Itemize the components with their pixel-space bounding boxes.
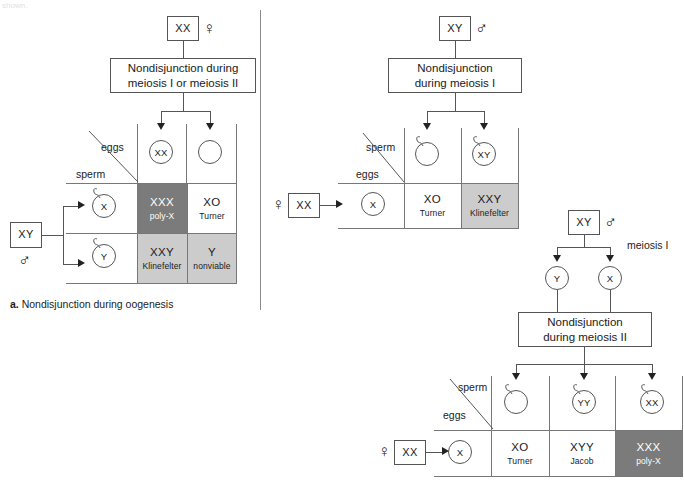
- panel-a-cell-y-phenotype: nonviable: [193, 261, 230, 271]
- panel-b-cell-xxy-genotype: XXY: [477, 193, 501, 205]
- panel-c-cell-xxx-phenotype: poly-X: [636, 456, 661, 466]
- panel-c-split-bar: [557, 247, 611, 248]
- panel-a-caption-marker: a.: [10, 298, 19, 310]
- panel-a-other-parent-branch-2: [63, 264, 78, 265]
- panel-b-arrow-1: [423, 123, 431, 130]
- panel-a-cell-xxx-phenotype: poly-X: [150, 211, 175, 221]
- panel-c-merge-left: [557, 290, 558, 312]
- panel-b-col-sep-2: [461, 128, 462, 183]
- panel-a-other-parent-arrow-1: [78, 201, 85, 209]
- panel-c-parent-genotype: XY: [576, 216, 591, 230]
- panel-c-other-parent-stem: [426, 452, 442, 453]
- panel-c-sperm-2: YY: [572, 390, 598, 416]
- panel-c-stage-label: meiosis I: [627, 239, 668, 251]
- panel-b-other-parent-arrow: [336, 200, 343, 208]
- panel-a-cell-xxy: XXY Klinefelter: [137, 233, 187, 283]
- panel-a-egg-1-label: XX: [149, 140, 173, 164]
- panel-a-stem-2: [183, 93, 184, 111]
- panel-c-sperm-3: XX: [640, 390, 666, 416]
- panel-c-process-box: Nondisjunction during meiosis II: [518, 312, 652, 347]
- panel-b-stem-1: [455, 41, 456, 58]
- panel-c-cell-xo-phenotype: Turner: [507, 456, 532, 466]
- panel-a-cell-xxx-genotype: XXX: [150, 196, 174, 208]
- panel-a-caption: a. Nondisjunction during oogenesis: [10, 298, 173, 310]
- panel-a-process-line2: meiosis I or meiosis II: [128, 76, 239, 90]
- panel-a-grid-bottom-rule: [66, 283, 237, 284]
- panel-b-cell-xo-phenotype: Turner: [420, 208, 445, 218]
- panel-a-egg-2-label: [198, 140, 222, 164]
- panel-a-diagonal: [88, 130, 140, 184]
- panel-a-arrow-2: [206, 123, 214, 130]
- panel-b-other-parent-stem: [320, 205, 336, 206]
- panel-b-sperm-2-label: XY: [472, 142, 496, 166]
- panel-b-parent-genotype: XY: [447, 22, 462, 36]
- panel-c-cell-xo-genotype: XO: [511, 441, 528, 453]
- panel-a-sperm-x-label: X: [92, 194, 116, 218]
- panel-c-grid-vline-2: [549, 430, 550, 477]
- panel-c-arrow-5: [648, 373, 656, 380]
- panel-b-sperm-1-label: [415, 142, 439, 166]
- panel-a-sperm-y-label: Y: [92, 244, 116, 268]
- panel-a-cell-y: Y nonviable: [187, 233, 237, 283]
- panel-a-process-box: Nondisjunction during meiosis I or meios…: [110, 58, 256, 93]
- panel-c-stem-2: [584, 347, 585, 364]
- panel-c-egg-x-label: X: [448, 440, 472, 464]
- panel-c-grid-vline-4: [682, 430, 683, 477]
- panel-c-process-line1: Nondisjunction: [547, 315, 622, 329]
- panel-a-grid-vline-right: [236, 183, 237, 284]
- panel-c-cell-xyy: XYY Jacob: [549, 430, 615, 476]
- clipped-top-text: shown.: [2, 1, 27, 10]
- panel-c-arrow-3: [512, 373, 520, 380]
- panel-b-other-parent-genotype: XX: [296, 199, 311, 213]
- panel-c-other-parent-sex-symbol: ♀: [378, 443, 391, 460]
- panel-b-process-line1: Nondisjunction: [417, 61, 492, 75]
- panel-a-sperm-y: Y: [92, 244, 118, 270]
- panel-b-stem-2: [455, 93, 456, 111]
- panel-b-grid-bottom-rule: [338, 228, 519, 229]
- panel-c-diagonal: [449, 378, 495, 431]
- panel-a-caption-text: Nondisjunction during oogenesis: [22, 298, 174, 310]
- panel-a-cell-xxx: XXX poly-X: [137, 183, 187, 233]
- panel-c-intermediate-x: X: [598, 266, 624, 292]
- panel-c-arrow-1: [553, 255, 561, 262]
- panel-c-sperm-3-label: XX: [640, 390, 664, 414]
- panel-a-cell-xxy-phenotype: Klinefelter: [143, 261, 182, 271]
- panel-a-parent-genotype: XX: [175, 22, 190, 36]
- panel-a-egg-2: [198, 140, 224, 166]
- panel-b-grid-vline-2: [461, 183, 462, 229]
- panel-c-intermediate-y: Y: [545, 266, 571, 292]
- panel-a-cell-xo: XO Turner: [187, 183, 237, 233]
- panel-c-grid-top-rule: [434, 430, 682, 431]
- panel-c-sperm-2-label: YY: [572, 390, 596, 414]
- panel-a-grid-mid-rule: [66, 233, 237, 234]
- panel-a-process-line1: Nondisjunction during: [128, 61, 239, 75]
- panel-a-other-parent-sex-symbol: ♂: [18, 252, 31, 269]
- panel-c-merge-right: [610, 290, 611, 312]
- panel-c-parent-sex-symbol: ♂: [604, 214, 617, 231]
- panel-c-cell-xxx: XXX poly-X: [615, 430, 682, 476]
- panel-b-egg-x: X: [361, 192, 387, 218]
- panel-c-stem-1: [584, 235, 585, 247]
- panel-a-cell-xo-phenotype: Turner: [199, 211, 224, 221]
- panel-a-cell-xxy-genotype: XXY: [150, 246, 174, 258]
- panel-a-other-parent-stem: [42, 235, 63, 236]
- panel-c-other-parent-genotype: XX: [402, 446, 417, 460]
- panel-a-col-sep-top-2: [186, 124, 187, 183]
- panel-b-egg-x-label: X: [361, 192, 385, 216]
- panel-a-parent-box: XX: [167, 16, 199, 41]
- panel-a-cell-y-genotype: Y: [208, 246, 216, 258]
- panel-b-parent-sex-symbol: ♂: [475, 20, 488, 37]
- panel-a-other-parent-genotype: XY: [18, 228, 33, 242]
- panel-c-intermediate-y-label: Y: [545, 266, 569, 290]
- panel-a-arrow-1: [157, 123, 165, 130]
- panel-a-egg-1: XX: [149, 140, 175, 166]
- panel-c-cell-xyy-phenotype: Jacob: [570, 456, 593, 466]
- panel-c-arrow-4: [580, 373, 588, 380]
- panel-a-grid-top-rule: [66, 183, 237, 184]
- panel-c-grid-vline-3: [615, 430, 616, 477]
- panel-c-grid-vline-1: [491, 430, 492, 477]
- panel-a-stem-1: [183, 41, 184, 58]
- panel-a-grid-vline-left: [137, 183, 138, 284]
- panel-b-other-parent-sex-symbol: ♀: [272, 196, 285, 213]
- panel-b-process-box: Nondisjunction during meiosis I: [388, 58, 522, 93]
